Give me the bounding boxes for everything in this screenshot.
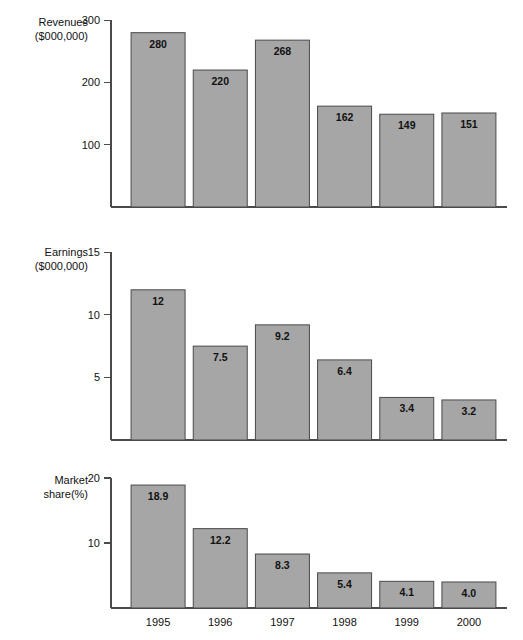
y-tick-label: 5: [94, 371, 100, 383]
bar-value-label: 162: [336, 111, 354, 123]
bar-market-share-1995: [131, 485, 185, 608]
bar-value-label: 268: [274, 45, 292, 57]
y-tick-label: 300: [82, 14, 100, 26]
bar-value-label: 3.2: [462, 405, 477, 417]
bar-value-label: 3.4: [399, 402, 414, 414]
chart-panel-earnings: Earnings($000,000)51015127.59.26.43.43.2: [35, 246, 507, 440]
chart-panel-revenues: Revenues($000,000)1002003002802202681621…: [35, 14, 507, 207]
bar-value-label: 9.2: [275, 330, 290, 342]
y-axis-title-line2: ($000,000): [35, 260, 88, 272]
bar-revenues-1996: [193, 70, 247, 207]
y-axis-title-line1: Earnings: [45, 246, 89, 258]
bar-value-label: 149: [398, 119, 416, 131]
chart-panel-market-share: Marketshare(%)102018.912.28.35.44.14.0: [43, 472, 507, 608]
y-axis-title-line2: share(%): [43, 488, 88, 500]
y-axis-title-line1: Market: [54, 474, 88, 486]
bar-value-label: 4.1: [399, 586, 414, 598]
bar-value-label: 4.0: [462, 587, 477, 599]
triple-bar-chart-figure: Revenues($000,000)1002003002802202681621…: [0, 0, 523, 640]
bar-earnings-1997: [255, 325, 309, 440]
y-tick-label: 10: [88, 537, 100, 549]
bar-value-label: 12.2: [210, 534, 231, 546]
x-axis-category-labels: 199519961997199819992000: [146, 616, 481, 628]
bar-value-label: 12: [152, 295, 164, 307]
bar-revenues-1995: [131, 33, 185, 207]
y-tick-label: 15: [88, 246, 100, 258]
bar-value-label: 280: [149, 38, 167, 50]
bar-value-label: 8.3: [275, 559, 290, 571]
x-tick-label-1996: 1996: [208, 616, 232, 628]
x-tick-label-1995: 1995: [146, 616, 170, 628]
y-tick-label: 20: [88, 472, 100, 484]
y-tick-label: 100: [82, 139, 100, 151]
x-tick-label-1997: 1997: [270, 616, 294, 628]
bar-value-label: 151: [460, 118, 478, 130]
bar-earnings-1995: [131, 290, 185, 440]
y-axis-title-line2: ($000,000): [35, 30, 88, 42]
y-tick-label: 200: [82, 76, 100, 88]
chart-canvas: Revenues($000,000)1002003002802202681621…: [0, 0, 523, 640]
x-tick-label-1998: 1998: [332, 616, 356, 628]
bar-value-label: 220: [211, 75, 229, 87]
bar-revenues-1997: [255, 40, 309, 207]
x-tick-label-2000: 2000: [457, 616, 481, 628]
bar-value-label: 7.5: [213, 351, 228, 363]
x-tick-label-1999: 1999: [395, 616, 419, 628]
bar-value-label: 18.9: [148, 490, 169, 502]
y-tick-label: 10: [88, 309, 100, 321]
bar-value-label: 5.4: [337, 578, 352, 590]
bar-value-label: 6.4: [337, 365, 352, 377]
